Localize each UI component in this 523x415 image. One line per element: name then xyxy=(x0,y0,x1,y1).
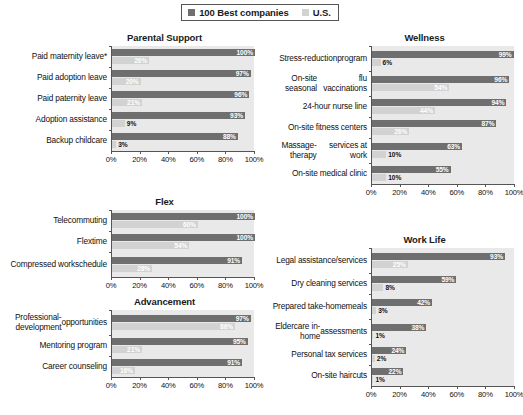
bar-group: 93%25% xyxy=(372,248,514,273)
category-label: Legal assistance/services xyxy=(262,248,371,273)
bar-group: 59%8% xyxy=(372,273,514,294)
category-label: Adoption assistance xyxy=(2,109,111,130)
bar-us: 1% xyxy=(372,376,373,383)
x-axis-tick-label: 40% xyxy=(161,155,176,164)
x-axis-tick xyxy=(225,277,226,280)
x-axis-tick xyxy=(400,386,401,389)
category-tick xyxy=(369,248,372,249)
bar-us: 8% xyxy=(372,284,383,291)
bar-us: 60% xyxy=(112,221,198,228)
bar-value-label: 100% xyxy=(237,213,255,220)
category-label: Eldercare in-homeassessments xyxy=(262,319,371,344)
x-axis-tick xyxy=(140,277,141,280)
bar-us: 44% xyxy=(372,107,435,114)
x-axis-tick-label: 0% xyxy=(366,390,377,399)
bar-value-label: 97% xyxy=(236,315,251,322)
category-tick xyxy=(369,344,372,345)
x-axis-tick-label: 60% xyxy=(449,188,464,197)
bar-value-label: 21% xyxy=(127,99,142,106)
legend-label-best-companies: 100 Best companies xyxy=(199,7,289,18)
x-axis-tick xyxy=(254,151,255,154)
category-tick xyxy=(369,365,372,366)
bar-value-label: 86% xyxy=(220,323,235,330)
x-axis-tick xyxy=(168,377,169,380)
bar-value-label: 16% xyxy=(120,367,135,374)
x-axis-tick-label: 0% xyxy=(106,281,117,290)
category-axis-parental-support: Paid maternity leave*Paid adoption leave… xyxy=(2,46,111,151)
bar-best-companies: 91% xyxy=(112,257,242,264)
bar-best-companies: 22% xyxy=(372,368,403,375)
bar-best-companies: 59% xyxy=(372,276,456,283)
bar-best-companies: 63% xyxy=(372,143,462,150)
category-tick xyxy=(369,117,372,118)
x-axis-tick-label: 60% xyxy=(449,390,464,399)
bar-value-label: 28% xyxy=(137,265,152,272)
category-tick xyxy=(369,46,372,47)
bar-group: 96%21% xyxy=(112,88,254,109)
panel-title-advancement: Advancement xyxy=(2,296,258,307)
x-axis-tick xyxy=(428,184,429,187)
chart-wellness: Stress-reductionprogramOn-site seasonalf… xyxy=(262,46,518,184)
category-tick xyxy=(109,252,112,253)
bar-us: 28% xyxy=(112,265,152,272)
bar-group: 63%10% xyxy=(372,138,514,163)
panel-advancement: AdvancementProfessional-developmentoppor… xyxy=(2,296,258,392)
bar-best-companies: 95% xyxy=(112,338,248,345)
x-axis-tick xyxy=(254,277,255,280)
x-axis-parental-support: 0%20%40%60%80%100% xyxy=(111,151,254,166)
x-axis-tick xyxy=(197,377,198,380)
category-tick xyxy=(109,231,112,232)
legend-label-us: U.S. xyxy=(313,7,331,18)
x-axis-tick xyxy=(371,184,372,187)
x-axis-tick-label: 60% xyxy=(189,381,204,390)
category-label: 24-hour nurse line xyxy=(262,96,371,117)
x-axis-tick-label: 40% xyxy=(161,281,176,290)
category-label: Backup childcare xyxy=(2,130,111,151)
bar-value-label: 1% xyxy=(373,332,384,339)
bar-value-label: 59% xyxy=(441,276,456,283)
bar-us: 26% xyxy=(372,128,409,135)
bar-best-companies: 38% xyxy=(372,324,426,331)
category-tick xyxy=(109,46,112,47)
x-axis-line xyxy=(111,277,254,278)
panel-parental-support: Parental SupportPaid maternity leave*Pai… xyxy=(2,32,258,166)
category-tick xyxy=(109,88,112,89)
bar-best-companies: 100% xyxy=(112,213,255,220)
bar-value-label: 96% xyxy=(234,91,249,98)
bar-us: 16% xyxy=(112,367,135,374)
bar-value-label: 93% xyxy=(490,253,505,260)
panel-title-wellness: Wellness xyxy=(262,32,518,43)
legend-entry-best-companies: 100 Best companies xyxy=(188,7,289,18)
x-axis-tick xyxy=(111,277,112,280)
category-label: Flextime xyxy=(2,231,111,252)
x-axis-tick-label: 40% xyxy=(161,381,176,390)
x-axis-wellness: 0%20%40%60%80%100% xyxy=(371,184,514,199)
bar-best-companies: 87% xyxy=(372,120,496,127)
bar-group: 88%3% xyxy=(112,130,254,151)
legend-entry-us: U.S. xyxy=(302,7,331,18)
bar-value-label: 8% xyxy=(383,284,394,291)
bar-value-label: 3% xyxy=(376,307,387,314)
category-label: On-site seasonalflu vaccinations xyxy=(262,71,371,96)
bar-group: 94%44% xyxy=(372,96,514,117)
x-axis-tick-label: 20% xyxy=(132,155,147,164)
x-axis-line xyxy=(111,377,254,378)
x-axis-tick xyxy=(168,151,169,154)
category-label: On-site haircuts xyxy=(262,365,371,386)
x-axis-tick xyxy=(225,377,226,380)
category-label: Dry cleaning services xyxy=(262,273,371,294)
bar-value-label: 91% xyxy=(227,257,242,264)
chart-parental-support: Paid maternity leave*Paid adoption leave… xyxy=(2,46,258,151)
bar-value-label: 9% xyxy=(125,120,136,127)
x-axis-tick xyxy=(514,386,515,389)
x-axis-tick-label: 60% xyxy=(189,155,204,164)
plot-area-advancement: 97%86%95%21%91%16% xyxy=(111,310,254,377)
x-axis-tick-label: 20% xyxy=(132,381,147,390)
bar-group: 42%3% xyxy=(372,294,514,319)
bar-value-label: 38% xyxy=(411,324,426,331)
bar-us: 10% xyxy=(372,151,386,158)
bar-best-companies: 88% xyxy=(112,133,238,140)
bar-best-companies: 97% xyxy=(112,315,251,322)
bar-best-companies: 91% xyxy=(112,359,242,366)
bar-best-companies: 24% xyxy=(372,347,406,354)
